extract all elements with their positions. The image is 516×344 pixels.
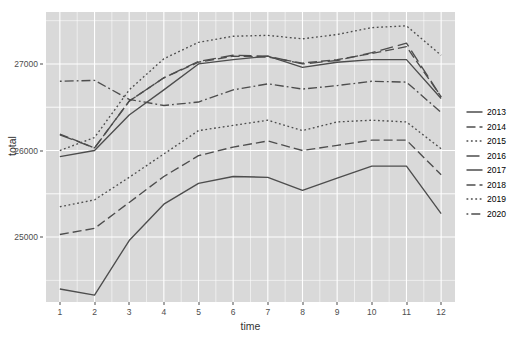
y-tick-label: 25000 <box>14 232 38 242</box>
x-tick-mark <box>233 302 234 305</box>
x-tick-mark <box>94 302 95 305</box>
legend-key-2014-icon <box>466 120 483 134</box>
plot-lines <box>46 12 455 302</box>
legend-key-2020-icon <box>466 207 483 221</box>
legend-key-2018-icon <box>466 178 483 192</box>
x-tick-label: 12 <box>436 307 445 317</box>
legend-item-2017: 2017 <box>466 163 516 178</box>
legend-label: 2019 <box>487 194 506 204</box>
legend-item-2018: 2018 <box>466 178 516 193</box>
legend-key-2019-icon <box>466 192 483 206</box>
legend-key-2013-icon <box>466 105 483 119</box>
x-tick-label: 8 <box>300 307 305 317</box>
x-tick-mark <box>406 302 407 305</box>
legend-key-2016-icon <box>466 149 483 163</box>
x-tick-mark <box>198 302 199 305</box>
legend-key-2015-icon <box>466 134 483 148</box>
legend-label: 2016 <box>487 151 506 161</box>
y-tick-mark <box>40 237 43 238</box>
legend-label: 2018 <box>487 180 506 190</box>
legend-item-2015: 2015 <box>466 134 516 149</box>
x-tick-label: 7 <box>265 307 270 317</box>
x-tick-mark <box>129 302 130 305</box>
legend-item-2013: 2013 <box>466 105 516 120</box>
x-axis: 123456789101112 <box>46 302 455 320</box>
x-tick-mark <box>441 302 442 305</box>
legend-item-2016: 2016 <box>466 149 516 164</box>
x-tick-label: 2 <box>92 307 97 317</box>
legend-label: 2017 <box>487 165 506 175</box>
legend-key-2017-icon <box>466 163 483 177</box>
y-tick-mark <box>40 150 43 151</box>
plot-panel <box>46 12 455 302</box>
x-tick-mark <box>337 302 338 305</box>
y-tick-label: 27000 <box>14 59 38 69</box>
x-axis-label: time <box>46 320 455 332</box>
x-tick-mark <box>371 302 372 305</box>
legend-label: 2020 <box>487 209 506 219</box>
legend-item-2020: 2020 <box>466 207 516 222</box>
legend-label: 2014 <box>487 122 506 132</box>
x-tick-mark <box>267 302 268 305</box>
x-tick-label: 11 <box>402 307 411 317</box>
x-tick-label: 6 <box>231 307 236 317</box>
x-tick-label: 9 <box>335 307 340 317</box>
x-tick-label: 3 <box>127 307 132 317</box>
x-tick-label: 10 <box>367 307 376 317</box>
x-tick-mark <box>59 302 60 305</box>
y-axis-label: total <box>6 116 18 176</box>
y-tick-mark <box>40 63 43 64</box>
line-chart: 250002600027000 123456789101112 time tot… <box>0 0 516 344</box>
x-tick-mark <box>302 302 303 305</box>
x-tick-label: 4 <box>161 307 166 317</box>
x-tick-label: 1 <box>58 307 63 317</box>
legend: 20132014201520162017201820192020 <box>466 105 516 221</box>
x-tick-label: 5 <box>196 307 201 317</box>
legend-label: 2015 <box>487 136 506 146</box>
legend-item-2019: 2019 <box>466 192 516 207</box>
x-tick-mark <box>163 302 164 305</box>
legend-item-2014: 2014 <box>466 120 516 135</box>
legend-label: 2013 <box>487 107 506 117</box>
